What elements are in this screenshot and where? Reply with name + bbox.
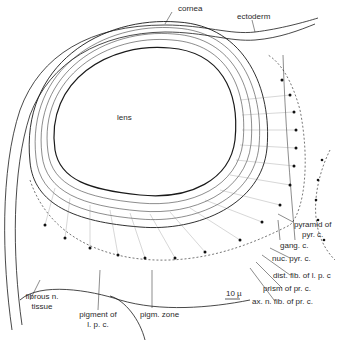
label-pigm-zone: pigm. zone bbox=[140, 310, 179, 319]
label-gang-c: gang. c. bbox=[280, 241, 308, 250]
label-ax-n-fib: ax. n. fib. of pr. c. bbox=[252, 297, 313, 306]
label-cornea: cornea bbox=[178, 4, 202, 13]
eye-diagram: cornea ectoderm lens pyramid of pyr. c. … bbox=[0, 0, 347, 342]
label-prism: prism of pr. c. bbox=[263, 284, 311, 293]
label-lens: lens bbox=[117, 113, 132, 122]
label-fibrous-2: tissue bbox=[20, 302, 64, 311]
label-pyramid-of-pyr-c-1: pyramid of bbox=[294, 220, 331, 229]
label-pigment-1: pigment of bbox=[74, 310, 122, 319]
label-scale-bar: 10 µ bbox=[226, 289, 242, 298]
label-nuc-pyr-c: nuc. pyr. c. bbox=[272, 254, 311, 263]
label-pigment-2: l. p. c. bbox=[74, 320, 122, 329]
label-dist-fib: dist. fib. of l. p. c bbox=[273, 271, 331, 280]
label-pyramid-of-pyr-c-2: pyr. c. bbox=[302, 230, 323, 239]
label-ectoderm: ectoderm bbox=[237, 12, 270, 21]
label-fibrous-1: fibrous n. bbox=[20, 292, 64, 301]
